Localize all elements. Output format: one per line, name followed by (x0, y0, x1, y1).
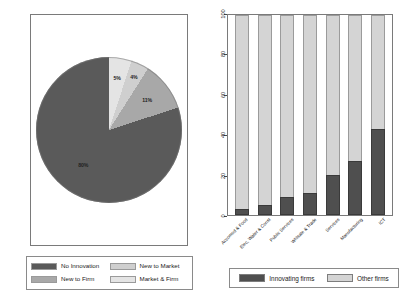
pie-wrapper: 80% 11% 4% 5% (36, 57, 182, 203)
legend-label: Other firms (357, 275, 389, 282)
y-axis-tick-label: 100 (220, 14, 226, 23)
legend-label: New to Market (140, 263, 180, 269)
legend-label: Market & Firm (140, 276, 179, 282)
legend-swatch-icon (110, 276, 136, 283)
bar-chart-panel: 020406080100 Accomod & FoodElec, Water &… (203, 0, 405, 304)
legend-item-new-to-market: New to Market (110, 263, 189, 270)
legend-item-no-innovation: No Innovation (31, 263, 110, 270)
pie-shape (36, 57, 182, 203)
pie-slice-label-new-to-firm: 11% (142, 97, 152, 103)
legend-item-innovating-firms: Innovating firms (239, 274, 314, 282)
legend-label: New to Firm (61, 276, 94, 282)
pie-legend-grid: No Innovation New to Market New to Firm … (31, 260, 188, 286)
pie-slice-label-no-innovation: 80% (78, 162, 88, 168)
bar-segment-other-firms (303, 15, 317, 193)
bar-segment-other-firms (235, 15, 249, 209)
y-axis-tick-label: 40 (220, 135, 226, 141)
legend-swatch-icon (327, 274, 353, 282)
pie-legend: No Innovation New to Market New to Firm … (26, 256, 193, 290)
legend-item-market-and-firm: Market & Firm (110, 276, 189, 283)
bar-services (326, 15, 340, 215)
bar-ict (371, 15, 385, 215)
pie-plot-area: 80% 11% 4% 5% (30, 14, 188, 246)
bar-plot-area (227, 14, 393, 216)
y-axis-tick-label: 60 (220, 95, 226, 101)
bar-segment-other-firms (258, 15, 272, 205)
bars-container (228, 15, 392, 215)
legend-item-new-to-firm: New to Firm (31, 276, 110, 283)
y-axis-tick-label: 80 (220, 54, 226, 60)
two-panel-figure: 80% 11% 4% 5% No Innovation New to Marke… (0, 0, 405, 304)
pie-slice-label-market-and-firm: 5% (114, 75, 121, 81)
pie-chart-panel: 80% 11% 4% 5% No Innovation New to Marke… (0, 0, 203, 304)
bar-manufacturing (348, 15, 362, 215)
x-axis-labels: Accomod & FoodElec, Water & ConstPublic … (227, 217, 393, 263)
legend-item-other-firms: Other firms (327, 274, 389, 282)
bar-accomod-food (235, 15, 249, 215)
legend-label: No Innovation (61, 263, 99, 269)
bar-legend: Innovating firms Other firms (229, 268, 399, 288)
y-axis-tick-label: 0 (220, 216, 226, 219)
pie-slice-label-new-to-market: 4% (130, 74, 137, 80)
bar-public-services (280, 15, 294, 215)
bar-elec-water-const (258, 15, 272, 215)
legend-swatch-icon (31, 276, 57, 283)
bar-segment-other-firms (348, 15, 362, 161)
legend-swatch-icon (31, 263, 57, 270)
bar-segment-other-firms (371, 15, 385, 129)
legend-swatch-icon (110, 263, 136, 270)
y-axis: 020406080100 (213, 14, 227, 216)
bar-whlsale-trade (303, 15, 317, 215)
y-axis-tick-label: 20 (220, 176, 226, 182)
legend-swatch-icon (239, 274, 265, 282)
bar-segment-other-firms (280, 15, 294, 197)
bar-segment-other-firms (326, 15, 340, 175)
legend-label: Innovating firms (269, 275, 314, 282)
